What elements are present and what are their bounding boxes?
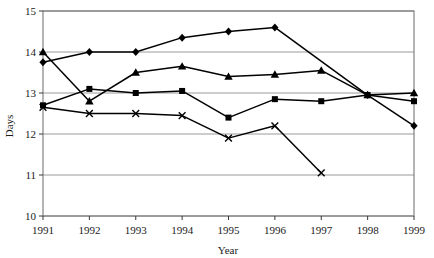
x-tick-label: 1999 [403,224,426,236]
x-axis-ticks: 199119921993199419951996199719981999 [32,216,426,236]
data-point-square [318,98,324,104]
x-tick-label: 1992 [78,224,100,236]
series-line-segment [229,27,275,31]
series-line-segment [43,52,89,62]
y-tick-label: 13 [25,87,37,99]
series-line-segment [182,91,228,118]
series-line-segment [43,89,89,105]
x-tick-label: 1995 [218,224,241,236]
y-tick-label: 11 [25,169,36,181]
series-line-segment [275,99,321,101]
series-line-segment [136,114,182,116]
series-x [40,104,325,176]
y-axis-title: Days [3,115,15,138]
data-point-diamond [39,58,46,66]
data-point-triangle [317,66,325,73]
series-line-segment [275,70,321,74]
data-point-square [272,96,278,102]
series-line-segment [182,32,228,38]
data-point-square [179,88,185,94]
series-line-segment [229,75,275,77]
line-chart: 101112131415 199119921993199419951996199… [0,0,434,258]
x-tick-label: 1998 [357,224,380,236]
data-point-square [226,115,232,121]
series-line-segment [182,116,228,139]
series-line-segment [89,73,135,102]
y-axis-ticks: 101112131415 [25,5,43,222]
data-point-diamond [410,122,417,130]
y-tick-label: 14 [25,46,37,58]
series-line-segment [89,89,135,93]
y-tick-label: 10 [25,210,37,222]
series-line-segment [43,52,89,101]
y-tick-label: 12 [25,128,36,140]
series-line-segment [229,126,275,138]
series-line-segment [321,70,367,95]
series-line-segment [321,95,367,101]
data-point-diamond [271,23,278,31]
x-tick-label: 1997 [310,224,333,236]
series-line-segment [136,38,182,52]
data-point-diamond [225,28,232,36]
series-line-segment [43,107,89,113]
chart-container: 101112131415 199119921993199419951996199… [0,0,434,258]
series-line-segment [275,27,368,95]
x-axis-title: Year [218,244,239,256]
x-tick-label: 1996 [264,224,287,236]
data-point-square [365,92,371,98]
x-tick-label: 1993 [125,224,148,236]
data-point-diamond [132,48,139,56]
y-tick-label: 15 [25,5,37,17]
series-line-segment [229,99,275,117]
x-tick-label: 1991 [32,224,54,236]
series-line-segment [275,126,321,173]
x-tick-label: 1994 [171,224,194,236]
series-line-segment [182,66,228,76]
data-point-square [133,90,139,96]
data-point-triangle [178,62,186,69]
data-point-square [86,86,92,92]
data-point-diamond [86,48,93,56]
data-series-layer [39,23,418,176]
series-line-segment [136,66,182,72]
data-point-square [411,98,417,104]
data-point-diamond [179,34,186,42]
